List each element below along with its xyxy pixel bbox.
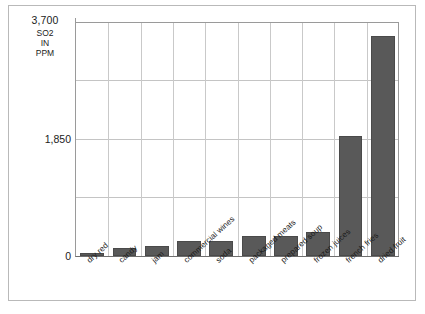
y-axis-title-line-2: IN: [19, 38, 71, 48]
bar-cell: [270, 23, 302, 256]
y-axis-title: SO2 IN PPM: [19, 28, 71, 58]
plot-inner: [76, 23, 399, 256]
bar-cell: [367, 23, 399, 256]
chart-container: 3,700 SO2 IN PPM 1,850 0 dry redcandyjam…: [8, 5, 416, 301]
bar-cell: [76, 23, 108, 256]
bar-dried-fruit[interactable]: [371, 36, 395, 256]
y-axis-header: 3,700 SO2 IN PPM: [19, 15, 71, 58]
bar-cell: [302, 23, 334, 256]
bar-series: [76, 23, 399, 256]
y-axis-title-line-3: PPM: [19, 48, 71, 58]
y-axis-max-label: 3,700: [19, 15, 71, 26]
bar-cell: [108, 23, 140, 256]
y-axis-tick-1850: 1,850: [19, 134, 71, 145]
bar-cell: [173, 23, 205, 256]
y-axis-title-line-1: SO2: [19, 28, 71, 38]
y-axis-tick-0: 0: [19, 251, 71, 262]
plot-area: [75, 18, 399, 257]
bar-cell: [237, 23, 269, 256]
bar-cell: [141, 23, 173, 256]
bar-cell: [334, 23, 366, 256]
x-axis-labels: dry redcandyjamcommercial winessodapacka…: [75, 258, 399, 314]
